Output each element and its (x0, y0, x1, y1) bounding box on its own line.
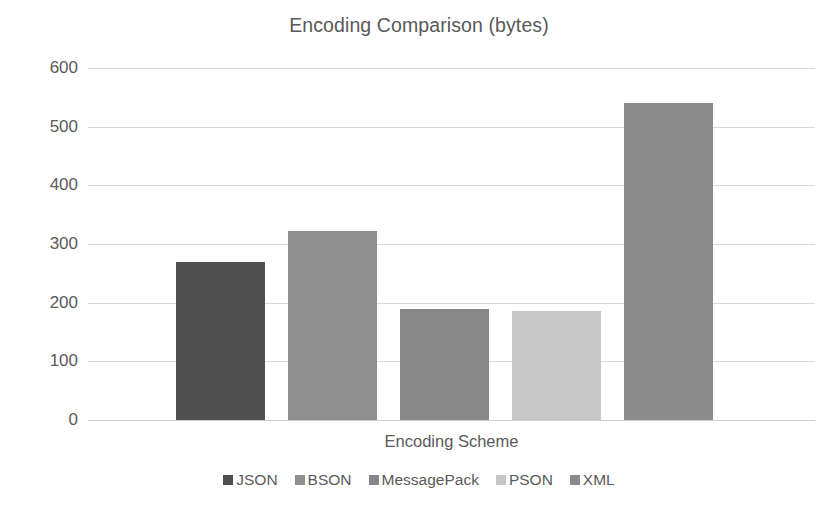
y-axis-tick-label: 500 (18, 118, 78, 135)
y-axis-tick-label: 600 (18, 59, 78, 76)
y-axis: 0100200300400500600 (8, 68, 78, 420)
bar-messagepack (400, 309, 489, 420)
legend-item-label: PSON (509, 472, 553, 488)
legend-swatch-icon (295, 475, 305, 485)
bar-chart: Encoding Comparison (bytes) 010020030040… (0, 0, 838, 512)
bars-layer (88, 68, 815, 420)
y-axis-tick-label: 400 (18, 176, 78, 193)
legend-item-pson[interactable]: PSON (496, 472, 553, 488)
x-axis-title: Encoding Scheme (88, 432, 815, 451)
legend-swatch-icon (570, 475, 580, 485)
legend-item-bson[interactable]: BSON (295, 472, 352, 488)
legend-item-xml[interactable]: XML (570, 472, 615, 488)
legend-item-label: BSON (308, 472, 352, 488)
chart-legend: JSONBSONMessagePackPSONXML (0, 472, 838, 488)
y-axis-tick-label: 300 (18, 235, 78, 252)
legend-item-label: XML (583, 472, 615, 488)
y-axis-tick-label: 200 (18, 294, 78, 311)
bar-bson (288, 231, 377, 420)
legend-item-json[interactable]: JSON (223, 472, 277, 488)
bar-xml (624, 103, 713, 420)
bar-json (176, 262, 265, 420)
legend-item-label: JSON (236, 472, 277, 488)
legend-item-messagepack[interactable]: MessagePack (369, 472, 479, 488)
legend-swatch-icon (496, 475, 506, 485)
gridline (88, 420, 815, 421)
legend-swatch-icon (369, 475, 379, 485)
y-axis-tick-label: 0 (18, 411, 78, 428)
bar-pson (512, 311, 601, 420)
y-axis-tick-label: 100 (18, 352, 78, 369)
legend-swatch-icon (223, 475, 233, 485)
chart-title: Encoding Comparison (bytes) (0, 14, 838, 37)
legend-item-label: MessagePack (382, 472, 479, 488)
